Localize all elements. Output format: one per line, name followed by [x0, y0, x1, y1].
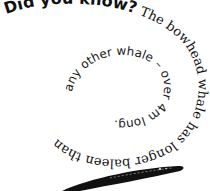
fact-outer-text: Did you know? The bowhead whale has long…: [1, 0, 210, 172]
spiral-fact-graphic: Did you know? The bowhead whale has long…: [0, 0, 210, 191]
fact-heading: Did you know?: [1, 0, 139, 18]
fact-inner-body: any other whale – over 4m long.: [61, 44, 175, 132]
fact-inner-text: any other whale – over 4m long.: [61, 44, 175, 132]
